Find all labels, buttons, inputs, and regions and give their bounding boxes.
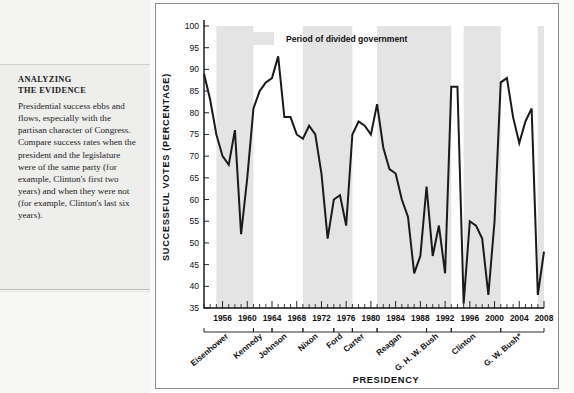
chart-panel: 35404550556065707580859095100 1956196019… xyxy=(155,3,559,389)
president-bracket xyxy=(334,328,353,332)
plot-area: 35404550556065707580859095100 1956196019… xyxy=(156,4,560,390)
y-tick-label: 75 xyxy=(189,129,199,139)
x-tick-label: 1964 xyxy=(263,313,282,323)
president-name-labels: EisenhowerKennedyJohnsonNixonFordCarterR… xyxy=(189,331,524,373)
y-tick-label: 50 xyxy=(189,238,199,248)
president-bracket xyxy=(253,328,272,332)
analyzing-the-evidence-note: ANALYZING THE EVIDENCE Presidential succ… xyxy=(0,64,150,290)
president-label: Clinton xyxy=(450,332,477,357)
y-tick-label: 55 xyxy=(189,216,199,226)
divided-government-bands xyxy=(216,26,544,308)
president-bracket xyxy=(204,328,253,332)
sidebar-bottom-filler xyxy=(0,291,150,393)
y-tick-label: 85 xyxy=(189,86,199,96)
y-tick-label: 45 xyxy=(189,260,199,270)
legend-label: Period of divided government xyxy=(286,34,407,44)
chart-legend: Period of divided government xyxy=(244,32,407,45)
y-tick-label: 90 xyxy=(189,64,199,74)
x-tick-label: 1992 xyxy=(436,313,455,323)
x-tick-label: 1984 xyxy=(386,313,405,323)
x-tick-label: 1968 xyxy=(287,313,306,323)
y-tick-label: 65 xyxy=(189,173,199,183)
president-label: Eisenhower xyxy=(189,331,231,368)
presidential-success-chart: 35404550556065707580859095100 1956196019… xyxy=(156,4,560,390)
x-axis-tick-labels: 1956196019641968197219761980198419881992… xyxy=(213,313,553,323)
president-bracket xyxy=(501,328,544,332)
president-label: G. W. Bush* xyxy=(482,331,524,368)
y-tick-label: 35 xyxy=(189,303,199,313)
y-tick-label: 40 xyxy=(189,281,199,291)
president-bracket xyxy=(272,328,303,332)
x-tick-label: 1956 xyxy=(213,313,232,323)
y-tick-label: 100 xyxy=(185,21,200,31)
x-tick-label: 1976 xyxy=(337,313,356,323)
y-tick-label: 60 xyxy=(189,195,199,205)
x-tick-label: 1980 xyxy=(362,313,381,323)
president-label: Nixon xyxy=(296,332,319,354)
y-tick-label: 80 xyxy=(189,108,199,118)
sidebar-top-filler xyxy=(0,0,150,64)
x-axis-title: PRESIDENCY xyxy=(353,375,420,385)
divided-government-band xyxy=(464,26,501,308)
president-bracket xyxy=(451,328,500,332)
y-tick-label: 95 xyxy=(189,43,199,53)
president-label: Reagan xyxy=(375,332,403,358)
x-tick-label: 2008 xyxy=(535,313,554,323)
x-tick-label: 1972 xyxy=(312,313,331,323)
x-tick-label: 1988 xyxy=(411,313,430,323)
x-tick-label: 1996 xyxy=(460,313,479,323)
president-bracket xyxy=(303,328,334,332)
note-heading-line2: THE EVIDENCE xyxy=(18,86,86,95)
x-tick-label: 2004 xyxy=(510,313,529,323)
president-bracket xyxy=(427,328,452,332)
note-body: Presidential success ebbs and flows, esp… xyxy=(18,100,136,221)
y-axis-title: SUCCESSFUL VOTES (PERCENTAGE) xyxy=(161,73,171,261)
y-tick-label: 70 xyxy=(189,151,199,161)
divided-government-band xyxy=(303,26,352,308)
president-brackets xyxy=(204,328,544,332)
note-heading-line1: ANALYZING xyxy=(18,75,72,84)
legend-swatch xyxy=(244,32,274,45)
y-axis-tick-labels: 35404550556065707580859095100 xyxy=(185,21,200,313)
x-tick-label: 1960 xyxy=(238,313,257,323)
x-tick-label: 2000 xyxy=(485,313,504,323)
president-bracket xyxy=(377,328,426,332)
note-heading: ANALYZING THE EVIDENCE xyxy=(18,75,136,96)
divided-government-band xyxy=(538,26,544,308)
president-bracket xyxy=(352,328,377,332)
president-label: Carter xyxy=(342,331,367,354)
